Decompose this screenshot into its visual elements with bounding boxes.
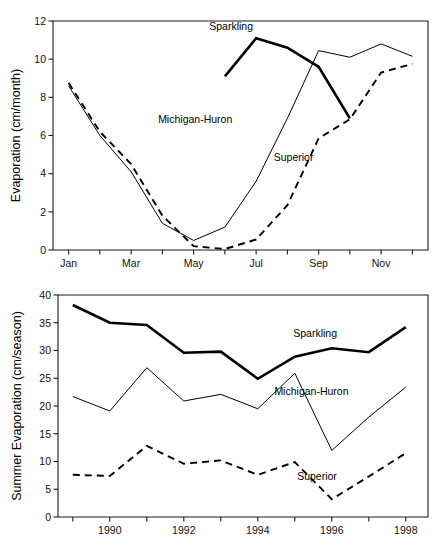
series-label-sparkling: Sparkling bbox=[293, 327, 337, 339]
x-axis-tick-label: Mar bbox=[122, 257, 141, 269]
y-axis-tick-label: 40 bbox=[39, 289, 51, 301]
series-line-michigan-huron bbox=[73, 368, 406, 451]
series-label-michigan-huron: Michigan-Huron bbox=[274, 385, 348, 397]
series-line-michigan-huron bbox=[69, 44, 413, 241]
x-axis-tick-label: 1992 bbox=[172, 524, 196, 536]
x-axis-tick-label: Sep bbox=[309, 257, 328, 269]
y-axis-tick-label: 30 bbox=[39, 344, 51, 356]
series-line-superior bbox=[73, 446, 406, 499]
y-axis-tick-label: 25 bbox=[39, 372, 51, 384]
monthly-evaporation-chart: 024681012JanMarMayJulSepNovEvaporation (… bbox=[0, 0, 442, 285]
series-label-sparkling: Sparkling bbox=[209, 20, 253, 32]
y-axis-tick-label: 6 bbox=[40, 129, 46, 141]
summer-evaporation-chart: 051015202530354019901992199419961998Summ… bbox=[0, 285, 442, 558]
y-axis-tick-label: 35 bbox=[39, 317, 51, 329]
x-axis-tick-label: 1998 bbox=[394, 524, 418, 536]
series-label-superior: Superior bbox=[274, 151, 314, 163]
x-axis-tick-label: Jan bbox=[60, 257, 77, 269]
x-axis-tick-label: 1994 bbox=[246, 524, 270, 536]
series-label-superior: Superior bbox=[297, 470, 337, 482]
x-axis-tick-label: 1990 bbox=[98, 524, 122, 536]
series-line-sparkling bbox=[225, 38, 350, 118]
y-axis-tick-label: 15 bbox=[39, 428, 51, 440]
y-axis-tick-label: 10 bbox=[34, 53, 46, 65]
y-axis-title: Summer Evaporation (cm/season) bbox=[10, 311, 24, 501]
x-axis-tick-label: 1996 bbox=[320, 524, 344, 536]
y-axis-tick-label: 5 bbox=[45, 483, 51, 495]
y-axis-tick-label: 20 bbox=[39, 400, 51, 412]
x-axis-tick-label: Nov bbox=[372, 257, 391, 269]
x-axis-tick-label: Jul bbox=[249, 257, 262, 269]
figure-container: 024681012JanMarMayJulSepNovEvaporation (… bbox=[0, 0, 442, 558]
y-axis-tick-label: 0 bbox=[45, 511, 51, 523]
x-axis-tick-label: May bbox=[184, 257, 205, 269]
y-axis-tick-label: 12 bbox=[34, 15, 46, 27]
series-line-superior bbox=[69, 64, 413, 249]
y-axis-tick-label: 10 bbox=[39, 455, 51, 467]
series-line-sparkling bbox=[73, 305, 406, 379]
y-axis-tick-label: 4 bbox=[40, 167, 46, 179]
y-axis-tick-label: 0 bbox=[40, 244, 46, 256]
y-axis-tick-label: 2 bbox=[40, 206, 46, 218]
chart-panel-summer: 051015202530354019901992199419961998Summ… bbox=[0, 285, 442, 558]
y-axis-title: Evaporation (cm/month) bbox=[9, 69, 23, 202]
y-axis-tick-label: 8 bbox=[40, 91, 46, 103]
chart-panel-monthly: 024681012JanMarMayJulSepNovEvaporation (… bbox=[0, 0, 442, 285]
series-label-michigan-huron: Michigan-Huron bbox=[158, 113, 232, 125]
